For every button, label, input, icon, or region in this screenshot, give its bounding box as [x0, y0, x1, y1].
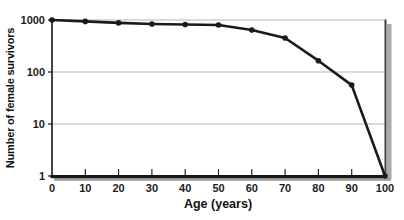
- x-axis-line: [51, 175, 388, 178]
- data-point-age-90: [349, 82, 355, 88]
- axis-ticks: [48, 20, 352, 176]
- y-tick-label-1000: 1000: [21, 14, 45, 26]
- y-tick-label-10: 10: [33, 118, 45, 130]
- data-points: [49, 17, 388, 179]
- data-point-age-50: [216, 22, 222, 28]
- x-tick-label-20: 20: [112, 182, 124, 194]
- data-point-age-20: [116, 20, 122, 26]
- x-tick-label-90: 90: [346, 182, 358, 194]
- x-tick-label-70: 70: [279, 182, 291, 194]
- tick-labels: 01020304050607080901001000100101: [21, 14, 395, 194]
- x-axis-label: Age (years): [184, 197, 252, 211]
- x-tick-label-100: 100: [376, 182, 394, 194]
- data-point-age-70: [282, 35, 288, 41]
- data-point-age-60: [249, 27, 255, 33]
- x-tick-label-0: 0: [49, 182, 55, 194]
- x-tick-label-80: 80: [312, 182, 324, 194]
- survivorship-curve-figure: 01020304050607080901001000100101 Age (ye…: [0, 0, 404, 220]
- survivorship-line: [52, 20, 385, 176]
- data-point-age-80: [316, 58, 322, 64]
- y-tick-label-100: 100: [27, 66, 45, 78]
- data-point-age-0: [49, 17, 55, 23]
- right-shadow: [387, 24, 392, 179]
- x-tick-label-60: 60: [246, 182, 258, 194]
- x-tick-label-50: 50: [212, 182, 224, 194]
- data-point-age-40: [182, 22, 188, 28]
- data-point-age-10: [83, 19, 89, 25]
- chart-canvas: 01020304050607080901001000100101 Age (ye…: [0, 0, 404, 220]
- x-tick-label-10: 10: [79, 182, 91, 194]
- x-tick-label-40: 40: [179, 182, 191, 194]
- y-axis-label: Number of female survivors: [4, 28, 16, 168]
- bottom-shadow: [54, 178, 391, 181]
- x-tick-label-30: 30: [146, 182, 158, 194]
- data-point-age-30: [149, 21, 155, 27]
- y-tick-label-1: 1: [39, 170, 45, 182]
- data-point-age-100: [382, 173, 388, 179]
